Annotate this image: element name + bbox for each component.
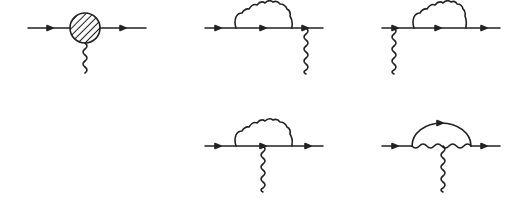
arrow-icon (392, 144, 398, 149)
photon-line (441, 146, 445, 192)
arrow-icon (120, 26, 126, 31)
blob-vertex-icon (70, 13, 100, 43)
internal-photon-line (412, 144, 471, 148)
arrow-icon (437, 121, 443, 126)
photon-line (392, 28, 396, 74)
photon-line (304, 28, 308, 74)
arrow-icon (47, 26, 53, 31)
diagram-self-energy-before-vertex (205, 1, 323, 74)
diagram-blob-vertex (28, 13, 146, 73)
photon-loop (413, 1, 466, 28)
arrow-icon (215, 144, 221, 149)
photon-loop (235, 1, 292, 28)
arrow-icon (481, 144, 487, 149)
arrow-icon (260, 26, 266, 31)
photon-loop (235, 119, 292, 146)
diagram-photon-on-internal-boson (382, 121, 500, 193)
feynman-diagrams (0, 0, 527, 200)
photon-line (83, 43, 87, 73)
arrow-icon (481, 26, 487, 31)
diagram-self-energy-after-vertex (382, 1, 500, 74)
arrow-icon (435, 26, 441, 31)
diagram-photon-inside-loop-on-fermion (205, 119, 323, 192)
internal-fermion-arc (412, 123, 471, 146)
arrow-icon (215, 26, 221, 31)
arrow-icon (305, 144, 311, 149)
photon-line (261, 146, 265, 192)
